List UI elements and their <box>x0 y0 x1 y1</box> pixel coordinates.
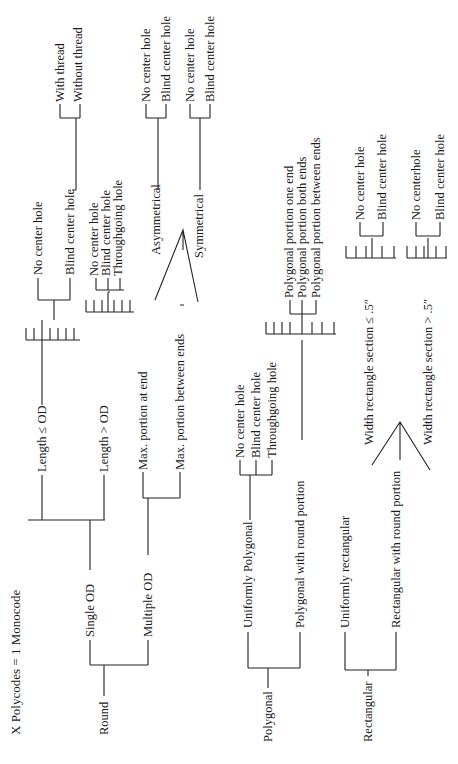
node-width-le: Width rectangle section ≤ .5″ <box>362 299 376 445</box>
leaf-no-centerhole: No centerhole <box>409 149 423 220</box>
edge-rectangular <box>345 632 396 676</box>
leaf-polygonal-between-ends: Polygonal portion between ends <box>309 137 323 298</box>
node-width-gt: Width rectangle section > .5″ <box>421 299 435 445</box>
node-symmetrical: Symmetrical <box>192 194 206 258</box>
edge-multiple-od <box>143 472 180 555</box>
leaf-throughgoing-hole: Throughgoing hole <box>265 361 279 458</box>
leaf-with-thread: With thread <box>53 42 67 102</box>
node-max-portion-end: Max. portion at end <box>136 371 150 470</box>
leaf-polygonal-both-ends: Polygonal portion both ends <box>295 157 309 298</box>
edge-blind-thread <box>60 104 80 190</box>
node-polygonal: Polygonal <box>261 691 275 742</box>
edge-round <box>90 640 148 696</box>
leaf-blind-center-hole: Blind center hole <box>433 133 447 220</box>
edge-polygonal <box>248 632 300 688</box>
leaf-throughgoing-hole: Throughgoing hole <box>111 179 125 276</box>
edge-asymmetrical <box>146 104 166 190</box>
node-max-portion-between: Max. portion between ends <box>173 334 187 470</box>
edge-single-od <box>28 475 105 570</box>
node-uniformly-polygonal: Uniformly Polygonal <box>241 521 255 628</box>
node-polygonal-with-round: Polygonal with round portion <box>293 480 307 628</box>
edge-width-gt <box>407 222 447 258</box>
node-multiple-od: Multiple OD <box>141 573 155 637</box>
leaf-blind-center-hole: Blind center hole <box>159 15 173 102</box>
node-single-od: Single OD <box>83 584 97 637</box>
leaf-no-center-hole: No center hole <box>353 146 367 220</box>
leaf-no-center-hole: No center hole <box>233 384 247 458</box>
node-length-gt-od: Length > OD <box>97 405 111 472</box>
leaf-no-center-hole: No center hole <box>183 28 197 102</box>
leaf-without-thread: Without thread <box>71 26 85 102</box>
edge-uniformly-polygonal <box>240 460 272 520</box>
leaf-polygonal-one-end: Polygonal portion one end <box>282 165 296 298</box>
node-asymmetrical: Asymmetrical <box>149 184 163 255</box>
edge-length-le-od <box>26 278 80 405</box>
edge-symmetrical <box>190 104 210 190</box>
node-round: Round <box>97 701 111 735</box>
leaf-blind-center-hole: Blind center hole <box>375 133 389 220</box>
diagram-title: X Polycodes = 1 Monocode <box>8 590 23 735</box>
leaf-blind-center-hole: Blind center hole <box>249 371 263 458</box>
classification-tree-diagram: X Polycodes = 1 Monocode Round Single OD… <box>0 0 458 764</box>
edge-length-gt-od <box>86 278 134 312</box>
leaf-blind-center-hole: Blind center hole <box>203 15 217 102</box>
leaf-blind-center-hole: Blind center hole <box>63 188 77 275</box>
node-uniformly-rectangular: Uniformly rectangular <box>338 515 352 628</box>
edge-width-le <box>346 222 396 258</box>
leaf-no-center-hole: No center hole <box>31 201 45 275</box>
node-rectangular-with-round: Rectangular with round portion <box>389 470 403 628</box>
leaf-no-center-hole: No center hole <box>139 28 153 102</box>
node-length-le-od: Length ≤ OD <box>35 405 49 472</box>
node-rectangular: Rectangular <box>361 681 375 742</box>
